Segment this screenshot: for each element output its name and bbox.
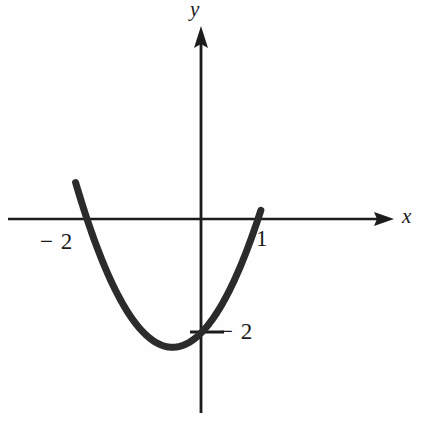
x-axis-arrowhead [374,212,394,226]
cartesian-plot [0,0,424,425]
x-tick-label-negative-two: − 2 [40,230,73,253]
x-tick-label-one: 1 [256,227,268,250]
x-axis-label: x [402,206,411,227]
y-tick-label-negative-two: − 2 [220,320,253,343]
graph-figure: y x − 2 1 − 2 [0,0,424,425]
y-axis-label: y [190,0,199,20]
